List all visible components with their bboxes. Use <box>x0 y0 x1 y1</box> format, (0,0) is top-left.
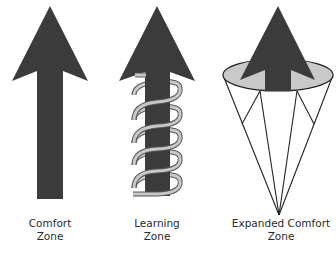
comfort-zone-arrow-icon <box>12 6 88 199</box>
comfort-zone-label: Comfort Zone <box>10 217 90 243</box>
comfort-zone-label-line2: Zone <box>10 230 90 243</box>
learning-zone-label-line1: Learning <box>117 217 197 230</box>
learning-zone-label-line2: Zone <box>117 230 197 243</box>
expanded-comfort-zone-label: Expanded Comfort Zone <box>226 217 336 243</box>
comfort-zone-label-line1: Comfort <box>10 217 90 230</box>
learning-zone-arrow-icon <box>119 6 195 196</box>
expanded-comfort-zone-label-line2: Zone <box>226 230 336 243</box>
learning-zone-label: Learning Zone <box>117 217 197 243</box>
expanded-comfort-zone-label-line1: Expanded Comfort <box>226 217 336 230</box>
expanded-comfort-zone-icon <box>223 6 333 215</box>
